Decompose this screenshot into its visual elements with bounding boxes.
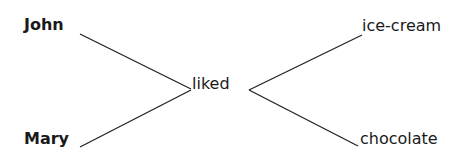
edge-liked-icecream [249, 35, 362, 90]
edge-john-liked [80, 34, 191, 89]
node-ice-cream: ice-cream [362, 18, 441, 34]
node-mary: Mary [24, 131, 69, 147]
edge-liked-chocolate [249, 90, 358, 146]
node-john: John [24, 17, 64, 33]
node-chocolate: chocolate [360, 131, 438, 147]
node-liked: liked [192, 76, 230, 92]
edge-mary-liked [80, 90, 191, 147]
